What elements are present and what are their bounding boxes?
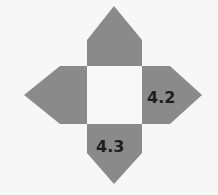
right-arm-label: 4.2 [147, 88, 175, 107]
net-diagram: 4.2 4.3 [0, 0, 218, 195]
bottom-arm-label: 4.3 [96, 137, 124, 156]
left-arm [24, 66, 87, 124]
top-arm [87, 6, 142, 66]
center-square [87, 66, 142, 124]
